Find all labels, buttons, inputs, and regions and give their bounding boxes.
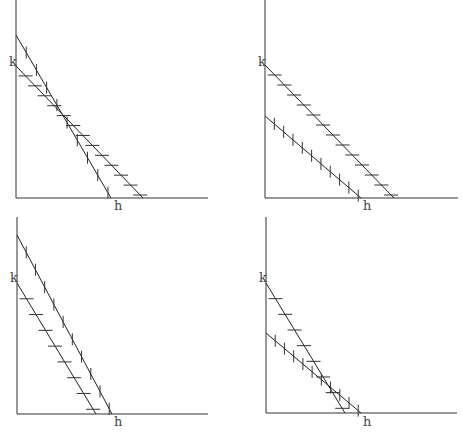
k-axis-label: k [259,270,267,285]
panel-bottom-right: kh [259,217,457,429]
dash-line [17,283,96,414]
h-axis-label: h [114,414,123,429]
panel-top-right: kh [258,0,458,213]
h-axis-label: h [363,198,372,213]
dash-line [266,283,345,413]
tick-line [16,35,111,198]
diagram-figure: kh kh kh kh [0,0,462,434]
panel-top-left: kh [9,0,208,213]
tick-line [17,235,112,414]
panel-bottom-left: kh [10,217,208,429]
k-axis-label: k [258,54,266,69]
k-axis-label: k [9,54,17,69]
k-axis-label: k [10,270,18,285]
h-axis-label: h [363,414,372,429]
h-axis-label: h [114,198,123,213]
tick-line [266,333,361,413]
tick-line [265,116,361,198]
